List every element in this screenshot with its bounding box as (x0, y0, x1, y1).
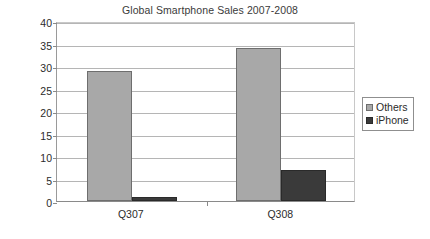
bar-others-q308 (236, 48, 281, 201)
y-axis-tick-label: 25 (40, 85, 52, 97)
y-axis-tick-label: 35 (40, 40, 52, 52)
legend-item-others[interactable]: Others (366, 101, 409, 114)
y-axis-tick-label: 15 (40, 130, 52, 142)
y-axis-tick-label: 20 (40, 107, 52, 119)
legend-label: iPhone (376, 114, 409, 127)
y-axis-tick-label: 40 (40, 17, 52, 29)
bar-chart: Global Smartphone Sales 2007-2008 Millio… (0, 0, 430, 239)
category-separator (207, 201, 208, 206)
chart-legend: OthersiPhone (362, 97, 414, 131)
y-axis-tick-label: 10 (40, 152, 52, 164)
y-axis-tick-mark (53, 203, 57, 204)
x-axis-label-q307: Q307 (56, 208, 206, 220)
gridline (57, 23, 354, 24)
y-axis-tick-mark (53, 113, 57, 114)
legend-swatch-others-icon (366, 104, 373, 111)
x-axis-label-q308: Q308 (206, 208, 356, 220)
gridline (57, 46, 354, 47)
bar-iphone-q308 (281, 170, 326, 202)
y-axis-tick-label: 30 (40, 62, 52, 74)
y-axis-tick-label: 5 (46, 175, 52, 187)
bar-iphone-q307 (132, 197, 177, 202)
plot-area: 0510152025303540 (56, 22, 355, 202)
y-axis-tick-mark (53, 181, 57, 182)
y-axis-tick-mark (53, 23, 57, 24)
y-axis-tick-mark (53, 91, 57, 92)
legend-label: Others (376, 101, 408, 114)
chart-title: Global Smartphone Sales 2007-2008 (60, 4, 360, 16)
gridline (57, 68, 354, 69)
bar-others-q307 (87, 71, 132, 202)
y-axis-tick-mark (53, 158, 57, 159)
y-axis-tick-mark (53, 136, 57, 137)
y-axis-tick-mark (53, 46, 57, 47)
legend-swatch-iphone-icon (366, 117, 373, 124)
y-axis-tick-label: 0 (46, 197, 52, 209)
y-axis-tick-mark (53, 68, 57, 69)
legend-item-iphone[interactable]: iPhone (366, 114, 409, 127)
